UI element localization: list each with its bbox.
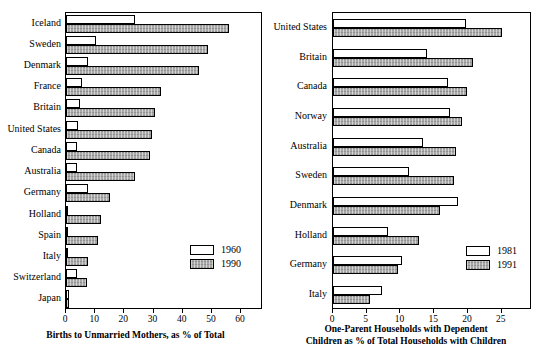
legend-swatch-1960 (190, 245, 214, 255)
category-label: Switzerland (0, 272, 61, 282)
category-label: Australia (0, 166, 61, 176)
category-label: Holland (0, 209, 61, 219)
bar-holland-1991 (333, 236, 419, 245)
bar-holland-1990 (66, 215, 101, 224)
chart-panel-right: United StatesBritainCanadaNorwayAustrali… (271, 0, 541, 357)
x-tick (182, 309, 183, 313)
bar-sweden-1991 (333, 176, 454, 185)
x-tick (332, 309, 333, 313)
x-tick (94, 309, 95, 313)
bar-canada-1990 (66, 151, 150, 160)
legend-label-1960: 1960 (221, 245, 241, 255)
bar-norway-1991 (333, 117, 462, 126)
x-tick (123, 309, 124, 313)
legend-swatch-1991 (466, 260, 490, 270)
x-tick (501, 309, 502, 313)
bar-japan-1960 (66, 290, 69, 299)
bar-iceland-1990 (66, 24, 229, 33)
bar-holland-1981 (333, 227, 388, 236)
bar-sweden-1981 (333, 167, 409, 176)
bar-united-states-1960 (66, 121, 78, 130)
bar-united-states-1990 (66, 130, 152, 139)
bar-australia-1991 (333, 147, 456, 156)
category-label: Holland (207, 230, 327, 240)
bar-britain-1991 (333, 58, 473, 67)
x-tick (211, 309, 212, 313)
x-axis-title-right-line2: Children as % of Total Households with C… (271, 336, 541, 348)
bar-switzerland-1990 (66, 278, 87, 287)
category-label: Iceland (0, 18, 61, 28)
bar-canada-1981 (333, 78, 448, 87)
bar-group (333, 72, 530, 102)
bar-sweden-1990 (66, 45, 208, 54)
bar-holland-1960 (66, 206, 68, 215)
bar-group (333, 132, 530, 162)
legend-right: 1981 1991 (466, 244, 517, 272)
category-label: Britain (207, 52, 327, 62)
bar-germany-1960 (66, 184, 88, 193)
bar-australia-1981 (333, 138, 423, 147)
bar-japan-1990 (66, 299, 69, 308)
x-axis-title-right: One-Parent Households with Dependent Chi… (271, 324, 541, 347)
category-label: Japan (0, 293, 61, 303)
bar-britain-1960 (66, 99, 80, 108)
bar-germany-1991 (333, 265, 398, 274)
category-label: Germany (207, 259, 327, 269)
category-label: Germany (0, 187, 61, 197)
bar-norway-1981 (333, 108, 450, 117)
x-tick (467, 309, 468, 313)
category-label: Spain (0, 230, 61, 240)
legend-swatch-1981 (466, 246, 490, 256)
category-label: Britain (0, 102, 61, 112)
x-tick (65, 309, 66, 313)
bar-britain-1990 (66, 108, 155, 117)
bar-group (333, 162, 530, 192)
category-label: Sweden (207, 170, 327, 180)
category-label: Sweden (0, 39, 61, 49)
category-label: Australia (207, 141, 327, 151)
x-axis-title-right-line1: One-Parent Households with Dependent (271, 324, 541, 336)
bar-group (66, 119, 261, 140)
bar-denmark-1960 (66, 57, 88, 66)
bar-italy-1960 (66, 248, 68, 257)
bar-group (333, 13, 530, 43)
legend-item-1981: 1981 (466, 244, 517, 258)
bar-denmark-1991 (333, 206, 440, 215)
x-tick-label: 25 (496, 314, 506, 324)
bar-australia-1960 (66, 163, 77, 172)
x-tick-label: 40 (177, 314, 187, 324)
bar-italy-1981 (333, 286, 382, 295)
legend-label-1991: 1991 (497, 260, 517, 270)
bar-denmark-1981 (333, 197, 458, 206)
x-tick (433, 309, 434, 313)
category-label: Denmark (0, 60, 61, 70)
x-tick (366, 309, 367, 313)
bar-australia-1990 (66, 172, 135, 181)
bar-italy-1991 (333, 295, 370, 304)
bar-iceland-1960 (66, 15, 135, 24)
bar-group (333, 102, 530, 132)
x-axis-title-left: Births to Unmarried Mothers, as % of Tot… (0, 330, 271, 342)
x-tick-label: 0 (63, 314, 68, 324)
bar-britain-1981 (333, 49, 427, 58)
x-tick-label: 10 (89, 314, 99, 324)
bar-germany-1981 (333, 256, 402, 265)
category-label: United States (0, 124, 61, 134)
x-tick-label: 50 (206, 314, 216, 324)
bar-switzerland-1960 (66, 269, 77, 278)
category-label: Norway (207, 111, 327, 121)
category-label: Italy (0, 251, 61, 261)
category-label: France (0, 81, 61, 91)
x-tick-label: 30 (148, 314, 158, 324)
category-label: Canada (0, 145, 61, 155)
bar-spain-1960 (66, 227, 68, 236)
bar-italy-1990 (66, 257, 88, 266)
bar-united-states-1991 (333, 28, 502, 37)
bar-denmark-1990 (66, 66, 199, 75)
x-tick (153, 309, 154, 313)
legend-item-1960: 1960 (190, 243, 241, 257)
bar-canada-1960 (66, 142, 77, 151)
bar-united-states-1981 (333, 19, 466, 28)
x-tick-label: 10 (395, 314, 405, 324)
bar-france-1960 (66, 78, 82, 87)
